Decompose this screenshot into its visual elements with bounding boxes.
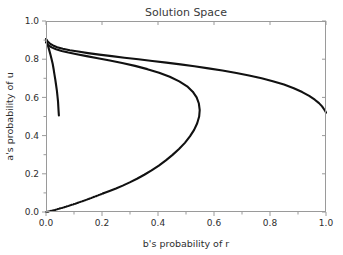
- y-tick-label: 0.6: [25, 93, 40, 103]
- x-tick-label: 0.6: [207, 218, 222, 228]
- chart-figure: Solution Space 0.00.20.40.60.81.0 0.00.2…: [0, 0, 343, 255]
- x-tick-label: 0.0: [39, 218, 54, 228]
- x-tick-label: 0.8: [263, 218, 278, 228]
- y-tick-label: 0.8: [25, 54, 40, 64]
- chart-title: Solution Space: [145, 6, 227, 19]
- y-tick-label: 1.0: [25, 16, 40, 26]
- x-tick-label: 0.2: [95, 218, 109, 228]
- x-axis-label: b's probability of r: [143, 238, 229, 249]
- x-tick-label: 1.0: [319, 218, 334, 228]
- axes-background: [46, 21, 326, 212]
- plot-canvas: Solution Space 0.00.20.40.60.81.0 0.00.2…: [0, 0, 343, 255]
- y-axis-label: a's probability of u: [4, 72, 15, 160]
- y-tick-label: 0.2: [25, 169, 39, 179]
- y-tick-label: 0.4: [25, 131, 40, 141]
- y-tick-label: 0.0: [25, 207, 40, 217]
- x-tick-label: 0.4: [151, 218, 166, 228]
